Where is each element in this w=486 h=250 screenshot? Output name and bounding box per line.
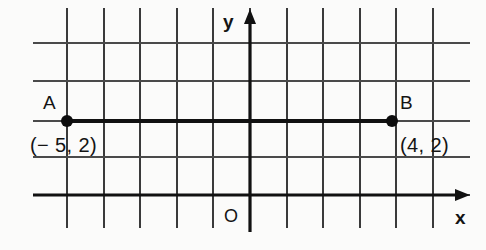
coordinate-grid-figure: A (− 5, 2) B (4, 2) y x O bbox=[0, 0, 486, 250]
point-marker-a bbox=[61, 115, 73, 127]
y-axis-arrowhead bbox=[244, 9, 256, 24]
x-axis-arrowhead bbox=[455, 189, 470, 201]
origin-label: O bbox=[224, 207, 238, 225]
point-marker-b bbox=[386, 115, 398, 127]
x-axis-label: x bbox=[455, 208, 466, 227]
point-coordinates-b: (4, 2) bbox=[400, 135, 449, 155]
grid-canvas bbox=[0, 0, 486, 250]
y-axis-label: y bbox=[223, 12, 234, 31]
point-label-b: B bbox=[400, 93, 413, 112]
point-label-a: A bbox=[43, 93, 56, 112]
point-coordinates-a: (− 5, 2) bbox=[30, 135, 97, 155]
